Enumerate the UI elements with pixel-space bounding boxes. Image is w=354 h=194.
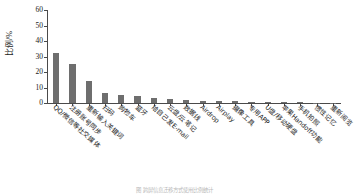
figure-caption: 图 跨屏信息迁移方式使用比例统计	[0, 188, 349, 193]
y-tick-label: 30	[36, 53, 44, 61]
bar-series	[48, 10, 341, 103]
bar	[53, 53, 59, 103]
y-tick-label: 0	[39, 99, 43, 107]
y-tick-label: 40	[36, 37, 44, 45]
bar	[102, 93, 108, 103]
y-tick-label: 60	[36, 6, 44, 14]
y-tick-label: 20	[36, 68, 44, 76]
y-tick-label: 50	[36, 22, 44, 30]
y-tick-mark	[44, 72, 47, 73]
x-axis-labels: QQ/微信等社交媒体注册账号同步重新输入关键词扫码购物车蓝牙给自己发E-mail…	[47, 104, 349, 184]
y-tick-mark	[44, 26, 47, 27]
y-tick-mark	[44, 41, 47, 42]
bar	[69, 64, 75, 103]
y-tick-mark	[44, 88, 47, 89]
bar	[134, 96, 140, 103]
plot-area: 0102030405060	[47, 10, 341, 103]
y-tick-mark	[44, 10, 47, 11]
y-axis-label: 比例/%	[6, 31, 14, 56]
y-tick-label: 10	[36, 84, 44, 92]
y-tick-mark	[44, 57, 47, 58]
bar	[118, 95, 124, 103]
bar	[86, 81, 92, 103]
